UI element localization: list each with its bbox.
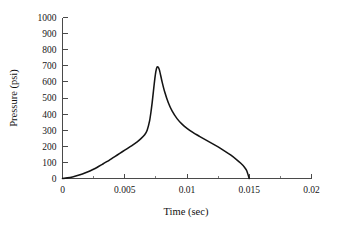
figure-container: 01002003004005006007008009001000 00.0050…	[0, 0, 343, 230]
y-tick-label: 200	[42, 142, 57, 152]
x-axis-title: Time (sec)	[164, 206, 209, 218]
x-tick-label: 0.015	[239, 185, 261, 195]
x-tick-label: 0.02	[303, 185, 320, 195]
y-axis-title: Pressure (psi)	[8, 69, 20, 127]
x-tick-label: 0.01	[179, 185, 196, 195]
y-tick-label: 300	[42, 126, 57, 136]
y-tick-label: 400	[42, 110, 57, 120]
y-tick-label: 900	[42, 29, 57, 39]
x-tick-label: 0.005	[114, 185, 136, 195]
pressure-vs-time-chart: 01002003004005006007008009001000 00.0050…	[0, 0, 343, 230]
y-tick-label: 500	[42, 93, 57, 103]
y-tick-label: 100	[42, 158, 57, 168]
x-tick-label: 0	[60, 185, 65, 195]
y-tick-label: 800	[42, 45, 57, 55]
y-tick-label: 0	[52, 174, 57, 184]
y-tick-label: 600	[42, 77, 57, 87]
y-tick-label: 700	[42, 61, 57, 71]
y-tick-label: 1000	[38, 13, 57, 23]
